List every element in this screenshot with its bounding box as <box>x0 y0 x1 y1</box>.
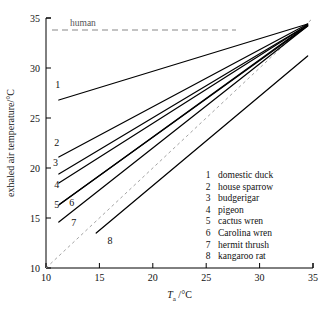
series-line-3 <box>59 25 308 174</box>
y-tick-label: 30 <box>30 63 40 74</box>
curve-number-6: 6 <box>69 197 74 208</box>
curve-number-1: 1 <box>55 79 60 90</box>
y-tick-label: 15 <box>30 213 40 224</box>
y-tick-label: 35 <box>30 13 40 24</box>
curve-number-3: 3 <box>53 157 58 168</box>
x-tick-label: 20 <box>148 272 158 283</box>
series-line-7 <box>59 26 308 222</box>
series-line-2 <box>59 24 308 157</box>
legend-number-2: 2 <box>206 182 211 192</box>
curve-number-8: 8 <box>108 235 113 246</box>
y-tick-label: 25 <box>30 113 40 124</box>
legend-number-8: 8 <box>206 251 211 261</box>
legend-label-2: house sparrow <box>218 182 273 192</box>
legend-label-7: hermit thrush <box>218 240 269 250</box>
legend-label-4: pigeon <box>218 205 244 215</box>
legend-label-5: cactus wren <box>218 216 263 226</box>
series-line-4 <box>59 25 308 183</box>
chart-figure: 101520253035101520253035human123456781do… <box>0 0 329 311</box>
curve-number-4: 4 <box>54 179 59 190</box>
human-label: human <box>70 18 96 28</box>
curve-number-5: 5 <box>54 199 59 210</box>
x-tick-label: 35 <box>308 272 318 283</box>
legend-number-7: 7 <box>206 240 211 250</box>
curve-number-2: 2 <box>54 137 59 148</box>
x-axis-title: Ta /°C <box>167 289 192 303</box>
legend-number-1: 1 <box>206 170 211 180</box>
legend-label-6: Carolina wren <box>218 228 272 238</box>
curve-number-7: 7 <box>71 217 76 228</box>
legend-label-8: kangaroo rat <box>218 251 266 261</box>
x-tick-label: 15 <box>94 272 104 283</box>
legend-number-4: 4 <box>206 205 211 215</box>
series-line-8 <box>96 56 307 233</box>
legend-label-1: domestic duck <box>218 170 273 180</box>
exhaled-air-temperature-chart: 101520253035101520253035human123456781do… <box>0 0 329 311</box>
legend-label-3: budgerigar <box>218 193 260 203</box>
legend-number-3: 3 <box>206 193 211 203</box>
legend-number-5: 5 <box>206 216 211 226</box>
series-line-1 <box>59 24 308 100</box>
y-axis-title: exhaled air temperature/°C <box>5 89 16 197</box>
legend-number-6: 6 <box>206 228 211 238</box>
x-tick-label: 10 <box>41 272 51 283</box>
y-tick-label: 20 <box>30 163 40 174</box>
x-tick-label: 30 <box>255 272 265 283</box>
x-axis-unit: /°C <box>176 289 192 300</box>
y-tick-label: 10 <box>30 263 40 274</box>
x-tick-label: 25 <box>201 272 211 283</box>
